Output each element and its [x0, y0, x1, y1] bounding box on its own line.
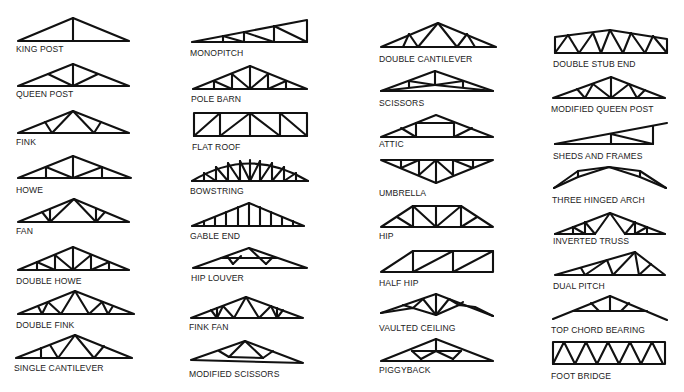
- truss-modified-queen-post: MODIFIED QUEEN POST: [551, 76, 681, 116]
- truss-label: SHEDS AND FRAMES: [553, 151, 642, 161]
- truss-foot-bridge: FOOT BRIDGE: [551, 341, 681, 383]
- umbrella-diagram: [379, 158, 499, 186]
- truss-bowstring: BOWSTRING: [190, 158, 316, 198]
- truss-flat-roof: FLAT ROOF: [192, 112, 317, 152]
- truss-inverted-truss: INVERTED TRUSS: [553, 212, 683, 252]
- truss-label: DOUBLE STUB END: [553, 59, 636, 69]
- vaulted-ceiling-diagram: [379, 293, 499, 319]
- three-hinged-arch-diagram: [552, 166, 672, 192]
- half-hip-diagram: [379, 249, 499, 275]
- truss-label: UMBRELLA: [379, 188, 426, 198]
- double-howe-diagram: [16, 246, 136, 272]
- truss-label: FINK FAN: [189, 322, 228, 332]
- truss-label: SCISSORS: [379, 98, 424, 108]
- truss-fink: FINK: [16, 110, 136, 150]
- king-post-diagram: [16, 16, 136, 46]
- truss-label: FAN: [16, 226, 33, 236]
- truss-king-post: KING POST: [16, 16, 136, 56]
- inverted-truss-diagram: [553, 212, 673, 236]
- double-fink-diagram: [16, 290, 138, 316]
- hip-diagram: [379, 204, 499, 230]
- truss-queen-post: QUEEN POST: [16, 62, 136, 102]
- truss-top-chord-bearing: TOP CHORD BEARING: [551, 295, 681, 337]
- modified-queen-post-diagram: [551, 76, 671, 100]
- attic-diagram: [379, 114, 499, 140]
- scissors-diagram: [379, 70, 499, 94]
- single-cantilever-diagram: [14, 334, 138, 360]
- truss-gable-end: GABLE END: [190, 202, 316, 242]
- double-stub-end-diagram: [553, 29, 673, 55]
- truss-label: DOUBLE CANTILEVER: [379, 54, 472, 64]
- truss-sheds-and-frames: SHEDS AND FRAMES: [553, 122, 683, 162]
- truss-dual-pitch: DUAL PITCH: [553, 250, 683, 290]
- truss-umbrella: UMBRELLA: [379, 158, 509, 198]
- truss-label: HOWE: [16, 185, 43, 195]
- truss-label: VAULTED CEILING: [379, 323, 456, 333]
- truss-monopitch: MONOPITCH: [190, 19, 315, 59]
- truss-vaulted-ceiling: VAULTED CEILING: [379, 293, 509, 333]
- truss-pole-barn: POLE BARN: [191, 65, 316, 105]
- truss-label: HIP: [379, 231, 394, 241]
- foot-bridge-diagram: [551, 341, 671, 367]
- truss-label: FINK: [16, 137, 36, 147]
- truss-label: SINGLE CANTILEVER: [14, 363, 104, 373]
- monopitch-diagram: [190, 19, 310, 45]
- truss-hip-louver: HIP LOUVER: [191, 247, 317, 287]
- fink-diagram: [16, 110, 136, 136]
- sheds-and-frames-diagram: [553, 122, 673, 148]
- truss-label: THREE HINGED ARCH: [552, 195, 645, 205]
- truss-modified-scissors: MODIFIED SCISSORS: [189, 340, 315, 380]
- double-cantilever-diagram: [379, 22, 499, 50]
- truss-three-hinged-arch: THREE HINGED ARCH: [552, 166, 682, 206]
- truss-double-fink: DOUBLE FINK: [16, 290, 136, 330]
- truss-label: MODIFIED SCISSORS: [189, 369, 280, 379]
- truss-scissors: SCISSORS: [379, 70, 509, 110]
- truss-fan: FAN: [16, 198, 136, 238]
- fan-diagram: [16, 198, 136, 224]
- truss-label: TOP CHORD BEARING: [551, 325, 645, 335]
- truss-label: KING POST: [16, 44, 64, 54]
- dual-pitch-diagram: [553, 250, 673, 278]
- truss-label: DOUBLE HOWE: [16, 276, 82, 286]
- truss-piggyback: PIGGYBACK: [379, 338, 509, 380]
- truss-half-hip: HALF HIP: [379, 249, 509, 289]
- truss-label: HALF HIP: [379, 278, 418, 288]
- truss-label: ATTIC: [379, 139, 404, 149]
- modified-scissors-diagram: [189, 340, 309, 364]
- truss-double-stub-end: DOUBLE STUB END: [553, 29, 678, 71]
- truss-hip: HIP: [379, 204, 509, 244]
- hip-louver-diagram: [191, 247, 311, 271]
- truss-double-cantilever: DOUBLE CANTILEVER: [379, 22, 509, 64]
- truss-label: FLAT ROOF: [192, 142, 240, 152]
- truss-fink-fan: FINK FAN: [189, 296, 315, 336]
- howe-diagram: [16, 155, 136, 181]
- truss-label: INVERTED TRUSS: [553, 236, 629, 246]
- truss-howe: HOWE: [16, 155, 136, 195]
- flat-roof-diagram: [192, 112, 312, 138]
- caption-text: cropped / illegible: [0, 385, 680, 387]
- truss-label: GABLE END: [190, 231, 240, 241]
- piggyback-diagram: [379, 338, 499, 364]
- truss-label: MONOPITCH: [190, 48, 243, 58]
- queen-post-diagram: [16, 62, 136, 90]
- truss-label: POLE BARN: [191, 94, 241, 104]
- truss-label: BOWSTRING: [190, 186, 244, 196]
- figure-caption-cropped: cropped / illegible: [0, 385, 684, 392]
- truss-label: HIP LOUVER: [191, 273, 244, 283]
- truss-label: MODIFIED QUEEN POST: [551, 104, 654, 114]
- bowstring-diagram: [190, 158, 314, 184]
- truss-label: PIGGYBACK: [379, 365, 431, 375]
- truss-label: DUAL PITCH: [553, 281, 605, 291]
- top-chord-bearing-diagram: [551, 295, 671, 323]
- truss-label: QUEEN POST: [16, 89, 73, 99]
- truss-attic: ATTIC: [379, 114, 509, 154]
- fink-fan-diagram: [189, 296, 309, 320]
- truss-single-cantilever: SINGLE CANTILEVER: [14, 334, 138, 374]
- pole-barn-diagram: [191, 65, 311, 91]
- truss-label: DOUBLE FINK: [16, 320, 74, 330]
- gable-end-diagram: [190, 202, 310, 228]
- truss-label: FOOT BRIDGE: [551, 371, 611, 381]
- truss-double-howe: DOUBLE HOWE: [16, 246, 136, 286]
